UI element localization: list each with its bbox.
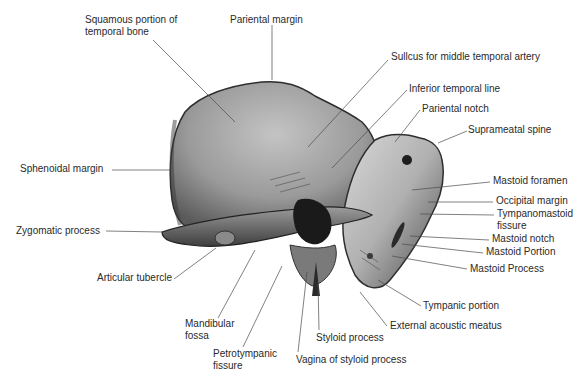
label-zygomatic-process: Zygomatic process — [16, 225, 100, 237]
label-tympanic-portion: Tympanic portion — [423, 300, 499, 312]
label-mastoid-process: Mastoid Process — [470, 263, 544, 275]
label-mandibular-fossa: Mandibular fossa — [185, 318, 234, 342]
label-sulcus-middle-temporal-artery: Sullcus for middle temporal artery — [391, 51, 540, 63]
label-petrotympanic-fissure: Petrotympanic fissure — [213, 348, 277, 372]
label-articular-tubercle: Articular tubercle — [97, 272, 172, 284]
label-sphenoidal-margin: Sphenoidal margin — [20, 163, 103, 175]
label-mastoid-foramen: Mastoid foramen — [493, 175, 567, 187]
articular-tubercle-shape — [215, 231, 235, 245]
label-suprameatal-spine: Suprameatal spine — [468, 124, 551, 136]
label-styloid-process: Styloid process — [316, 332, 384, 344]
tympanic-portion-shape — [290, 245, 336, 286]
label-external-acoustic-meatus: External acoustic meatus — [390, 320, 502, 332]
label-pariental-margin: Pariental margin — [230, 14, 303, 26]
label-mastoid-portion: Mastoid Portion — [486, 246, 555, 258]
label-squamous-portion: Squamous portion of temporal bone — [85, 14, 177, 38]
label-tympanomastoid-fissure: Tympanomastoid fissure — [497, 208, 573, 232]
label-occipital-margin: Occipital margin — [496, 195, 568, 207]
label-pariental-notch: Pariental notch — [422, 103, 489, 115]
mastoid-foramen-shape — [402, 155, 412, 165]
label-inferior-temporal-line: Inferior temporal line — [409, 83, 500, 95]
label-vagina-styloid-process: Vagina of styloid process — [296, 354, 406, 366]
label-mastoid-notch: Mastoid notch — [492, 233, 554, 245]
